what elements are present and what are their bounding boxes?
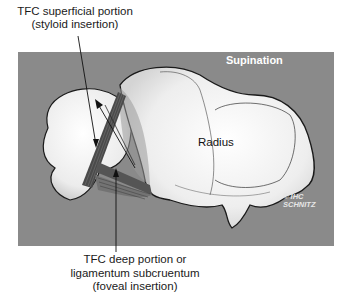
callout-text: TFC deep portion or [60,253,210,267]
callout-text: TFC superficial portion [0,5,150,18]
callout-text: (styloid insertion) [0,18,150,31]
callout-superficial-label: TFC superficial portion (styloid inserti… [0,5,150,31]
copyright-text: SCHNITZ [283,201,316,209]
callout-text: ligamentum subcruentum [60,267,210,281]
panel-title: Supination [226,54,283,66]
callout-deep-label: TFC deep portion or ligamentum subcruent… [60,253,210,294]
callout-text: (foveal insertion) [60,280,210,294]
copyright-notice: © IHC SCHNITZ [283,193,316,209]
bone-label-radius: Radius [198,136,234,148]
